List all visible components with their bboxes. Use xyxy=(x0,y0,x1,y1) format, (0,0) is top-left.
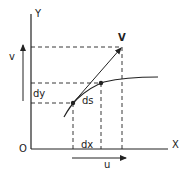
point-1 xyxy=(71,101,75,105)
u-component-label: u xyxy=(104,160,110,170)
dx-label: dx xyxy=(81,140,93,150)
velocity-diagram: Y X O V v u dy dx ds xyxy=(0,0,188,174)
ds-label: ds xyxy=(82,96,94,106)
point-2 xyxy=(99,81,103,85)
velocity-label: V xyxy=(118,33,126,43)
velocity-vector xyxy=(73,48,121,103)
diagram-graphics xyxy=(0,0,188,174)
x-axis-label: X xyxy=(172,140,179,150)
v-component-label: v xyxy=(9,52,15,62)
origin-label: O xyxy=(19,144,27,154)
dy-label: dy xyxy=(33,89,45,99)
y-axis-label: Y xyxy=(35,9,41,19)
